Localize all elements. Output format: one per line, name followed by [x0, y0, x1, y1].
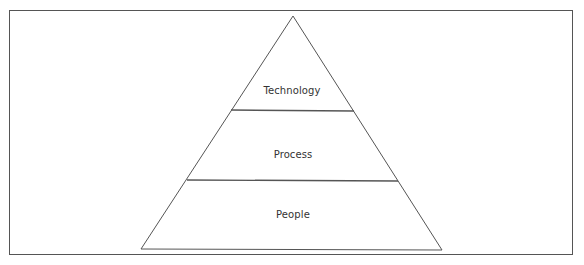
pyramid-tier-process	[187, 110, 398, 181]
pyramid-diagram	[0, 0, 584, 265]
pyramid-tier-technology	[231, 16, 354, 111]
pyramid-label-process: Process	[274, 149, 313, 160]
pyramid-divider-top	[231, 110, 354, 111]
pyramid-label-people: People	[276, 209, 310, 220]
pyramid-label-technology: Technology	[263, 85, 320, 96]
pyramid-divider-bottom	[187, 180, 398, 181]
